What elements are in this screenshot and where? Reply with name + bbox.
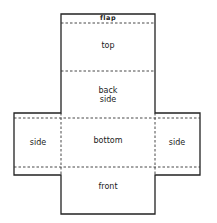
panel-label-flap: flap xyxy=(100,14,116,23)
panel-label-front: front xyxy=(98,182,117,191)
panel-label-bottom: bottom xyxy=(94,136,123,145)
panel-label-back-side: back side xyxy=(98,86,117,104)
panel-label-top: top xyxy=(101,41,114,50)
panel-label-side-left: side xyxy=(30,138,46,147)
panel-label-side-right: side xyxy=(169,138,185,147)
